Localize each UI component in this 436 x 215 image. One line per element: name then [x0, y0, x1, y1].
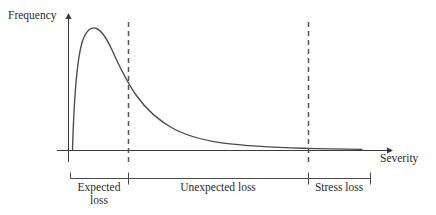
up-arrow-axis-icon — [65, 13, 71, 19]
x-axis-label: Severity — [380, 152, 418, 165]
loss-distribution-figure: Frequency Severity Expected loss Unexpec… — [0, 0, 436, 215]
band-label-expected-loss: Expected loss — [62, 181, 136, 207]
band-label-expected-loss-line2: loss — [62, 194, 136, 207]
y-axis — [65, 13, 71, 162]
band-label-stress-loss: Stress loss — [303, 181, 375, 194]
loss-distribution-curve — [73, 28, 363, 150]
y-axis-label: Frequency — [8, 9, 57, 22]
band-label-unexpected-loss: Unexpected loss — [150, 181, 286, 194]
band-label-expected-loss-line1: Expected — [62, 181, 136, 194]
